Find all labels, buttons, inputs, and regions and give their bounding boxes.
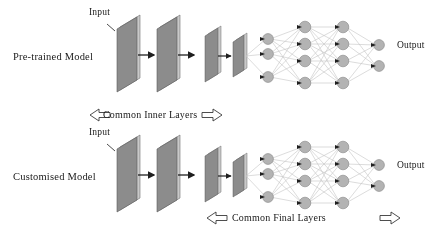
band-label-common-inner-layers: Common Inner Layers: [103, 110, 197, 120]
band-label-common-final-layers: Common Final Layers: [232, 213, 326, 223]
model-label-customised: Customised Model: [13, 172, 96, 183]
row-pretrained: [107, 15, 384, 92]
right-block-arrow-icon: [202, 109, 222, 121]
diagram-svg: [0, 0, 438, 236]
input-label-pretrained: Input: [89, 8, 110, 18]
input-leader-line: [107, 24, 115, 31]
conv-slab-small-2: [233, 153, 247, 197]
conv-slab-large-1: [117, 135, 140, 212]
model-label-pretrained: Pre-trained Model: [13, 52, 93, 63]
conv-slab-small-1: [205, 146, 221, 202]
conv-slab-large-2: [157, 15, 180, 92]
conv-slab-small-2: [233, 33, 247, 77]
output-label-pretrained: Output: [397, 41, 425, 51]
input-leader-line: [107, 144, 115, 151]
figure-canvas: Pre-trained Model Input Output Common In…: [0, 0, 438, 236]
conv-slab-small-1: [205, 26, 221, 82]
network-nodes: [263, 21, 385, 89]
output-label-customised: Output: [397, 161, 425, 171]
conv-slab-large-2: [157, 135, 180, 212]
network-nodes: [263, 141, 385, 209]
input-label-customised: Input: [89, 128, 110, 138]
conv-slab-large-1: [117, 15, 140, 92]
row-customised: [107, 135, 384, 212]
left-block-arrow-icon: [207, 212, 227, 224]
right-block-arrow-icon: [380, 212, 400, 224]
